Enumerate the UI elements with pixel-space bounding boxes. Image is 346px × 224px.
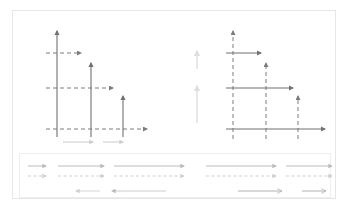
diagram-svg — [13, 11, 337, 151]
right-diagram-group — [226, 31, 325, 139]
left-diagram-group — [46, 31, 147, 137]
left-vertical-solid-arrows — [57, 31, 123, 137]
right-horizontal-solid-arrows — [226, 53, 325, 129]
legend-left-group — [28, 166, 184, 191]
legend-right-group — [206, 166, 332, 191]
right-vertical-dashed-arrows — [233, 31, 298, 139]
screenshot-root — [0, 0, 346, 224]
legend-strip-panel — [19, 153, 331, 198]
diagram-region — [13, 11, 337, 151]
left-horizontal-dashed-arrows — [46, 53, 147, 129]
outer-card-panel — [12, 10, 336, 199]
legend-svg — [20, 154, 332, 199]
